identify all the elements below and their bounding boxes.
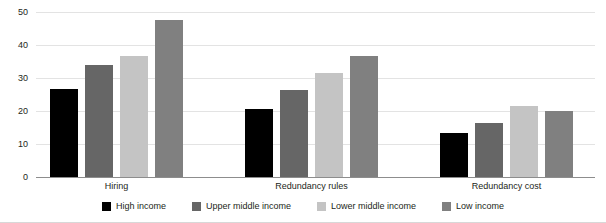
bar-chart: 01020304050 HiringRedundancy rulesRedund…: [0, 0, 606, 223]
legend-item[interactable]: Upper middle income: [192, 201, 291, 211]
legend: High incomeUpper middle incomeLower midd…: [0, 201, 606, 211]
legend-item[interactable]: Low income: [442, 201, 504, 211]
bar: [510, 106, 538, 177]
legend-swatch-icon: [317, 202, 326, 211]
y-tick-label-30: 30: [18, 74, 28, 83]
legend-swatch-icon: [442, 202, 451, 211]
bar: [120, 56, 148, 177]
legend-label: Upper middle income: [206, 201, 291, 211]
legend-label: Low income: [456, 201, 504, 211]
bars-layer: [36, 12, 595, 177]
legend-swatch-icon: [192, 202, 201, 211]
legend-label: Lower middle income: [331, 201, 416, 211]
bar: [155, 20, 183, 177]
y-axis-labels: 01020304050: [0, 12, 32, 177]
y-tick-label-40: 40: [18, 41, 28, 50]
bar: [245, 109, 273, 177]
gridline-0: [36, 177, 595, 178]
x-category-label: Hiring: [105, 181, 129, 192]
legend-item[interactable]: Lower middle income: [317, 201, 416, 211]
bar: [280, 90, 308, 177]
y-tick-label-50: 50: [18, 8, 28, 17]
bar: [545, 111, 573, 177]
legend-label: High income: [116, 201, 166, 211]
y-tick-label-0: 0: [23, 173, 28, 182]
bar: [350, 56, 378, 177]
x-axis-category-labels: HiringRedundancy rulesRedundancy cost: [36, 181, 595, 195]
x-category-label: Redundancy cost: [472, 181, 542, 192]
legend-swatch-icon: [102, 202, 111, 211]
legend-item[interactable]: High income: [102, 201, 166, 211]
plot-area: [36, 12, 595, 177]
y-tick-label-10: 10: [18, 140, 28, 149]
bar: [50, 89, 78, 177]
bar: [440, 133, 468, 177]
bar: [315, 73, 343, 177]
clipped-title-row: [0, 0, 606, 3]
y-tick-label-20: 20: [18, 107, 28, 116]
x-category-label: Redundancy rules: [275, 181, 348, 192]
bar: [475, 123, 503, 177]
bottom-divider: [0, 222, 606, 223]
bar: [85, 65, 113, 177]
